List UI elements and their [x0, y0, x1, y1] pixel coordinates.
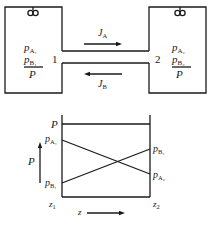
pressure-profile-plot: P pA₁ pB₁ pB₂ pA₂ P z1 z2 z [27, 115, 165, 217]
pA1-label: pA₁ [44, 133, 57, 145]
arrow-up-icon [38, 142, 42, 148]
right-total-P: P [175, 68, 183, 80]
flux-A-label: JA [98, 27, 107, 39]
stirrer-icon [28, 7, 38, 16]
pB-profile-line [62, 149, 150, 183]
pressure-axis-label: P [27, 155, 35, 167]
left-total-P: P [28, 68, 36, 80]
two-bulb-apparatus: pA₁ pB₁ P 1 pA₂ pB₂ P 2 JA JB [5, 7, 206, 93]
pB1-label: pB₁ [44, 177, 57, 189]
stirrer-icon [175, 7, 185, 16]
equimolar-counter-diffusion-diagram: pA₁ pB₁ P 1 pA₂ pB₂ P 2 JA JB [0, 0, 209, 228]
right-bulb-number: 2 [155, 53, 161, 65]
total-P-label: P [50, 118, 58, 130]
left-pB1-label: pB₁ [23, 53, 37, 67]
z-axis-label: z [77, 207, 82, 217]
z2-label: z2 [152, 199, 160, 210]
arrow-left-icon [84, 72, 90, 76]
z1-label: z1 [48, 199, 56, 210]
arrow-right-icon [116, 42, 122, 46]
flux-B-label: JB [98, 78, 107, 90]
left-bulb-number: 1 [52, 53, 58, 65]
pA2-label: pA₂ [152, 169, 165, 181]
pB2-label: pB₂ [152, 143, 165, 155]
right-pB2-label: pB₂ [171, 53, 185, 67]
arrow-right-icon [119, 211, 125, 215]
pA-profile-line [62, 140, 150, 174]
